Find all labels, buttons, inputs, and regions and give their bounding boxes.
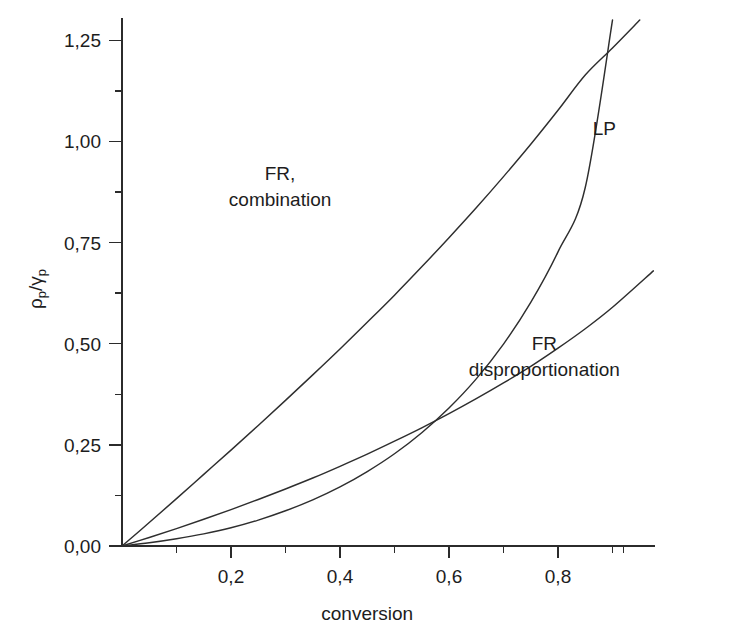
y-axis-ticks: 0,000,250,500,751,001,25 (64, 30, 122, 557)
x-axis-title: conversion (321, 603, 413, 624)
chart-figure: 0,20,40,60,80,000,250,500,751,001,25conv… (0, 0, 747, 630)
y-tick-label: 1,00 (64, 131, 101, 152)
y-tick-label: 1,25 (64, 30, 101, 51)
curve-lp (122, 20, 613, 546)
curve-fr-combination (122, 20, 640, 546)
curve-fr-disproportionation (122, 271, 653, 546)
y-tick-label: 0,50 (64, 334, 101, 355)
x-tick-label: 0,8 (545, 566, 571, 587)
x-tick-label: 0,4 (327, 566, 354, 587)
curves (122, 20, 653, 546)
curve-label-fr-combination: FR,combination (229, 163, 331, 210)
y-tick-label: 0,75 (64, 233, 101, 254)
y-tick-label: 0,00 (64, 536, 101, 557)
y-tick-label: 0,25 (64, 435, 101, 456)
curve-label-lp: LP (593, 118, 616, 139)
curve-annotations: FR,combinationLPFRdisproportionation (229, 118, 620, 379)
chart-plot-area: 0,20,40,60,80,000,250,500,751,001,25conv… (0, 0, 747, 630)
x-axis-ticks: 0,20,40,60,8 (177, 546, 624, 587)
axes (122, 18, 655, 546)
x-tick-label: 0,2 (218, 566, 244, 587)
x-tick-label: 0,6 (436, 566, 462, 587)
y-axis-title: ρp/γp (25, 269, 49, 309)
curve-label-fr-disproportionation: FRdisproportionation (469, 333, 620, 380)
